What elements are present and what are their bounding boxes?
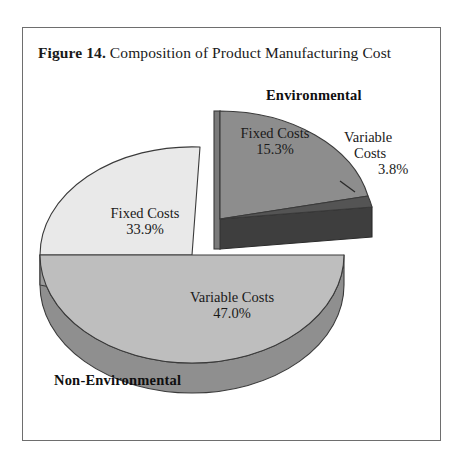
pie-chart: Fixed Costs 15.3% Variable Costs 3.8% Fi… (22, 27, 441, 441)
figure-page: Figure 14. Composition of Product Manufa… (0, 0, 467, 466)
exploded-environmental-group (214, 111, 372, 249)
group-label-environmental: Environmental (266, 87, 362, 104)
slice-side-env-fixed-wall (214, 111, 220, 249)
group-label-non-environmental: Non-Environmental (54, 372, 181, 389)
slice-top-nonenv-fixed (40, 147, 200, 255)
